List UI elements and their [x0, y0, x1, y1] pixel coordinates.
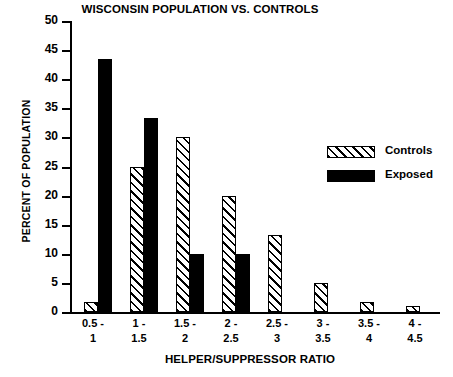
- legend-swatch-controls-icon: [327, 146, 375, 158]
- chart-figure: WISCONSIN POPULATION VS. CONTROLS PERCEN…: [0, 0, 453, 377]
- bar-exposed-2: [144, 118, 158, 312]
- x-tick-label-7: 3.5 -4: [346, 316, 392, 346]
- bar-exposed-3: [190, 254, 204, 312]
- bar-group-3: [164, 21, 210, 312]
- x-tick-label-2: 1 -1.5: [116, 316, 162, 346]
- y-tick-25: 25: [62, 167, 70, 169]
- bar-group-4: [210, 21, 256, 312]
- bar-controls-7: [360, 302, 374, 312]
- y-tick-label-0: 0: [51, 304, 58, 318]
- bar-group-2: [118, 21, 164, 312]
- x-tick-label-line1: 3.5 -: [346, 316, 392, 331]
- x-tick-label-line2: 2.5: [208, 331, 254, 346]
- x-axis-ticks: 0.5 -11 -1.51.5 -22 -2.52.5 -33 -3.53.5 …: [70, 316, 440, 356]
- chart-legend: Controls Exposed: [327, 144, 447, 192]
- y-tick-20: 20: [62, 196, 70, 198]
- y-tick-label-25: 25: [45, 159, 58, 173]
- x-tick-label-line2: 1.5: [116, 331, 162, 346]
- bar-exposed-1: [98, 59, 112, 312]
- x-axis-title: HELPER/SUPPRESSOR RATIO: [60, 353, 440, 365]
- x-tick-label-line1: 3 -: [300, 316, 346, 331]
- x-tick-label-line1: 1.5 -: [162, 316, 208, 331]
- x-tick-label-line2: 4: [346, 331, 392, 346]
- legend-item-controls: Controls: [327, 144, 447, 168]
- x-tick-label-6: 3 -3.5: [300, 316, 346, 346]
- y-tick-label-40: 40: [45, 71, 58, 85]
- y-tick-45: 45: [62, 50, 70, 52]
- x-tick-label-line1: 0.5 -: [70, 316, 116, 331]
- bar-controls-8: [406, 306, 420, 312]
- x-tick-label-5: 2.5 -3: [254, 316, 300, 346]
- legend-label-exposed: Exposed: [385, 168, 433, 180]
- bar-controls-1: [84, 302, 98, 312]
- bar-controls-5: [268, 235, 282, 312]
- x-axis-line: [70, 312, 440, 314]
- x-tick-label-line2: 4.5: [392, 331, 438, 346]
- y-tick-label-20: 20: [45, 188, 58, 202]
- y-tick-0: 0: [62, 312, 70, 314]
- x-tick-label-3: 1.5 -2: [162, 316, 208, 346]
- y-tick-5: 5: [62, 283, 70, 285]
- chart-title: WISCONSIN POPULATION VS. CONTROLS: [40, 3, 360, 15]
- x-tick-label-line2: 2: [162, 331, 208, 346]
- y-tick-50: 50: [62, 21, 70, 23]
- x-tick-label-line1: 4 -: [392, 316, 438, 331]
- x-tick-label-line1: 2.5 -: [254, 316, 300, 331]
- legend-swatch-exposed-icon: [327, 170, 375, 182]
- bar-group-1: [72, 21, 118, 312]
- y-tick-label-10: 10: [45, 246, 58, 260]
- x-tick-label-8: 4 -4.5: [392, 316, 438, 346]
- y-tick-35: 35: [62, 108, 70, 110]
- y-tick-10: 10: [62, 254, 70, 256]
- x-tick-label-line1: 2 -: [208, 316, 254, 331]
- y-tick-15: 15: [62, 225, 70, 227]
- x-tick-label-4: 2 -2.5: [208, 316, 254, 346]
- y-tick-label-5: 5: [51, 275, 58, 289]
- x-tick-label-line2: 1: [70, 331, 116, 346]
- x-tick-label-line1: 1 -: [116, 316, 162, 331]
- x-tick-label-line2: 3.5: [300, 331, 346, 346]
- y-tick-40: 40: [62, 79, 70, 81]
- bar-controls-6: [314, 283, 328, 312]
- y-tick-label-35: 35: [45, 100, 58, 114]
- bar-controls-4: [222, 196, 236, 312]
- y-tick-label-50: 50: [45, 13, 58, 27]
- bar-exposed-4: [236, 254, 250, 312]
- y-tick-label-30: 30: [45, 129, 58, 143]
- y-tick-label-15: 15: [45, 217, 58, 231]
- y-tick-30: 30: [62, 137, 70, 139]
- bar-controls-2: [130, 167, 144, 313]
- x-tick-label-1: 0.5 -1: [70, 316, 116, 346]
- y-axis-title: PERCENT OF POPULATION: [20, 71, 32, 271]
- y-tick-label-45: 45: [45, 42, 58, 56]
- legend-label-controls: Controls: [385, 144, 432, 156]
- legend-item-exposed: Exposed: [327, 168, 447, 192]
- bar-controls-3: [176, 137, 190, 312]
- bar-group-5: [256, 21, 302, 312]
- x-tick-label-line2: 3: [254, 331, 300, 346]
